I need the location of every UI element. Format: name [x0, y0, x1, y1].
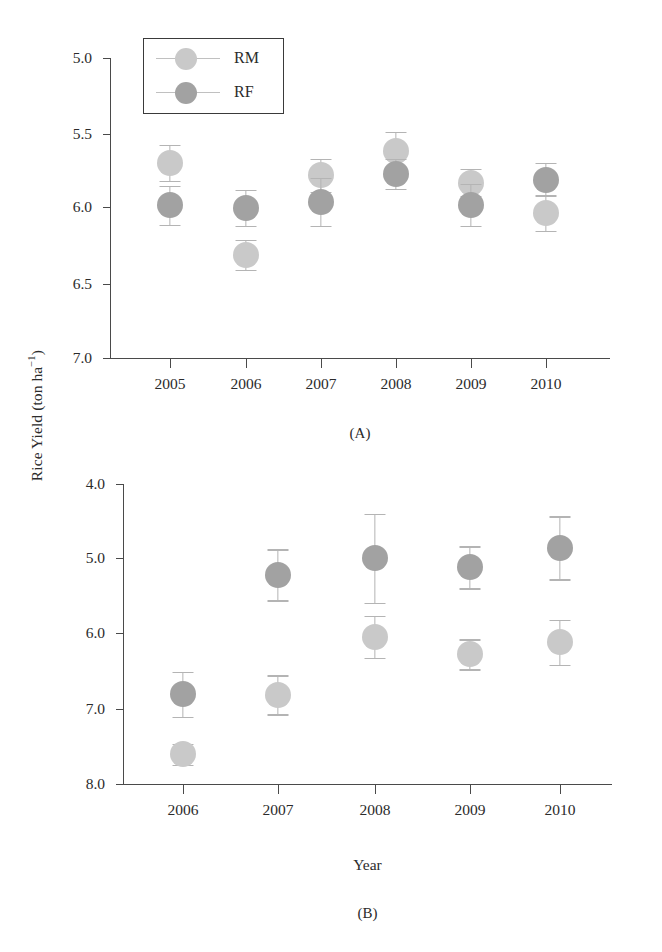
marker-rm — [547, 629, 573, 655]
x-tick — [278, 785, 279, 794]
figure-canvas: Rice Yield (ton ha−1) 5.05.56.06.57.0200… — [0, 0, 662, 952]
legend-box: RM RF — [143, 38, 284, 114]
y-tick-label: 5.0 — [44, 50, 92, 66]
error-bar-cap-upper — [550, 516, 571, 517]
x-tick-label: 2008 — [340, 802, 410, 818]
marker-rf — [362, 545, 388, 571]
marker-rf — [458, 192, 484, 218]
y-tick-label: 5.0 — [57, 550, 105, 566]
error-bar-cap-lower — [550, 579, 571, 580]
error-bar-cap-lower — [460, 588, 481, 589]
error-bar-cap-lower — [173, 717, 194, 718]
error-bar-cap-upper — [461, 184, 482, 185]
error-bar-cap-upper — [160, 145, 181, 146]
x-tick — [546, 359, 547, 368]
legend-marker-rm — [175, 48, 197, 70]
error-bar-cap-upper — [268, 549, 289, 550]
x-tick-label: 2008 — [361, 376, 431, 392]
marker-rm — [170, 741, 196, 767]
error-bar-cap-upper — [536, 163, 557, 164]
legend-marker-rf — [175, 82, 197, 104]
y-tick — [103, 207, 110, 208]
panel-b-caption: (B) — [328, 905, 408, 922]
error-bar-cap-lower — [550, 665, 571, 666]
error-bar-cap-lower — [365, 603, 386, 604]
error-bar-cap-upper — [311, 159, 332, 160]
y-axis-line — [110, 58, 111, 358]
error-bar-cap-lower — [460, 669, 481, 670]
legend-label-rf: RF — [234, 83, 254, 101]
error-bar-cap-upper — [311, 178, 332, 179]
marker-rm — [157, 150, 183, 176]
x-tick-label: 2005 — [135, 376, 205, 392]
error-bar-cap-lower — [365, 658, 386, 659]
marker-rm — [362, 624, 388, 650]
marker-rf — [457, 554, 483, 580]
y-tick-label: 4.0 — [57, 476, 105, 492]
error-bar-cap-lower — [311, 226, 332, 227]
y-tick-label: 7.0 — [57, 701, 105, 717]
x-tick-label: 2009 — [435, 802, 505, 818]
marker-rm — [233, 242, 259, 268]
error-bar-cap-lower — [536, 196, 557, 197]
y-tick-label: 6.0 — [44, 199, 92, 215]
y-tick — [103, 134, 110, 135]
x-axis-title: Year — [308, 856, 428, 874]
y-tick-label: 5.5 — [44, 126, 92, 142]
legend-label-rm: RM — [234, 49, 259, 67]
y-axis-title: Rice Yield (ton ha−1) — [26, 296, 45, 536]
error-bar-cap-upper — [236, 190, 257, 191]
error-bar-cap-upper — [160, 186, 181, 187]
marker-rf — [233, 195, 259, 221]
x-tick — [560, 785, 561, 794]
error-bar-cap-lower — [536, 231, 557, 232]
y-tick — [103, 284, 110, 285]
y-tick-label: 7.0 — [44, 350, 92, 366]
error-bar-cap-upper — [365, 616, 386, 617]
marker-rf — [265, 562, 291, 588]
x-axis-line — [110, 358, 610, 359]
x-tick-label: 2010 — [511, 376, 581, 392]
x-tick-label: 2006 — [211, 376, 281, 392]
marker-rf — [383, 161, 409, 187]
error-bar-cap-upper — [386, 132, 407, 133]
marker-rf — [157, 192, 183, 218]
x-tick — [471, 359, 472, 368]
marker-rf — [308, 189, 334, 215]
marker-rf — [170, 681, 196, 707]
x-axis-line — [123, 784, 612, 785]
x-tick-label: 2010 — [525, 802, 595, 818]
error-bar-cap-lower — [268, 600, 289, 601]
marker-rm — [457, 641, 483, 667]
error-bar-cap-lower — [236, 270, 257, 271]
error-bar-cap-upper — [460, 546, 481, 547]
y-tick — [103, 58, 110, 59]
x-tick-label: 2007 — [243, 802, 313, 818]
error-bar-cap-upper — [365, 514, 386, 515]
y-axis-line — [123, 484, 124, 784]
y-tick-label: 6.5 — [44, 276, 92, 292]
x-tick — [396, 359, 397, 368]
y-tick — [116, 484, 123, 485]
x-tick — [170, 359, 171, 368]
y-axis-title-text: Rice Yield (ton ha — [28, 367, 45, 481]
error-bar-cap-lower — [236, 226, 257, 227]
legend-item-rm: RM — [144, 44, 283, 74]
x-tick — [470, 785, 471, 794]
marker-rm — [533, 200, 559, 226]
error-bar-cap-lower — [461, 226, 482, 227]
x-tick-label: 2006 — [148, 802, 218, 818]
error-bar-cap-lower — [386, 189, 407, 190]
marker-rm — [265, 682, 291, 708]
x-tick — [375, 785, 376, 794]
y-tick — [116, 558, 123, 559]
y-tick — [116, 709, 123, 710]
y-axis-title-paren: ) — [28, 350, 45, 355]
x-tick — [321, 359, 322, 368]
error-bar-cap-lower — [160, 181, 181, 182]
error-bar-cap-upper — [550, 620, 571, 621]
y-tick — [103, 358, 110, 359]
error-bar-cap-upper — [268, 675, 289, 676]
y-tick — [116, 633, 123, 634]
x-tick — [183, 785, 184, 794]
